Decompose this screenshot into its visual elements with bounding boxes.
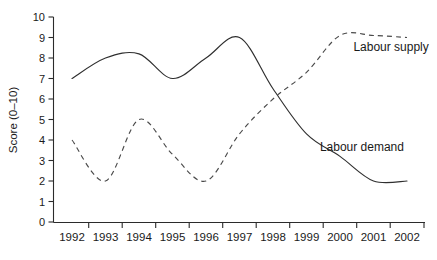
x-tick-label-2001: 2001 (361, 231, 387, 243)
x-tick-label-1992: 1992 (59, 231, 85, 243)
x-tick-label-1993: 1993 (93, 231, 119, 243)
y-tick-label-9: 9 (39, 32, 45, 44)
x-tick-label-2002: 2002 (394, 231, 420, 243)
line-chart: 10 9 8 7 6 5 4 3 2 1 0 Score (0–10) 1992… (0, 0, 437, 260)
y-tick-label-4: 4 (39, 134, 45, 146)
series-line-labour-supply (72, 33, 407, 182)
y-tick-label-7: 7 (39, 73, 45, 85)
x-tick-label-1996: 1996 (193, 231, 219, 243)
y-tick-label-3: 3 (39, 155, 45, 167)
y-tick-label-1: 1 (39, 196, 45, 208)
y-tick-label-5: 5 (39, 114, 45, 126)
y-tick-label-10: 10 (33, 11, 45, 23)
y-axis-ticks (49, 17, 54, 222)
x-tick-label-1999: 1999 (294, 231, 320, 243)
y-tick-label-0: 0 (39, 216, 45, 228)
x-tick-label-2000: 2000 (327, 231, 353, 243)
series-label-labour-demand: Labour demand (320, 140, 404, 154)
y-tick-label-6: 6 (39, 93, 45, 105)
x-tick-label-1994: 1994 (126, 231, 152, 243)
x-axis-ticks (89, 223, 424, 229)
y-tick-label-2: 2 (39, 175, 45, 187)
x-tick-label-1998: 1998 (260, 231, 286, 243)
chart-container: 10 9 8 7 6 5 4 3 2 1 0 Score (0–10) 1992… (0, 0, 437, 260)
series-label-labour-supply: Labour supply (353, 40, 428, 54)
x-tick-label-1997: 1997 (227, 231, 253, 243)
x-tick-label-1995: 1995 (160, 231, 186, 243)
series-line-labour-demand (72, 37, 407, 183)
y-axis-title: Score (0–10) (7, 87, 19, 154)
y-tick-label-8: 8 (39, 52, 45, 64)
